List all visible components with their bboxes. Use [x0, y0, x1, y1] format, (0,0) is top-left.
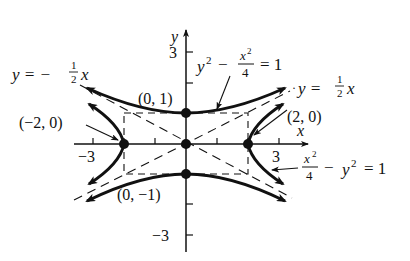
y-tick-label-3: 3	[169, 44, 177, 61]
pointer-vertical-eq	[217, 76, 230, 109]
left-branch-up	[89, 104, 124, 144]
label-point-0-neg1: (0, −1)	[117, 186, 161, 204]
svg-text:4: 4	[306, 168, 313, 183]
hyperbola-diagram: x y −3 3 3 −3 (0, 1) (0, −1) (−2, 0) (2,…	[0, 0, 410, 261]
point-neg2-0	[119, 139, 129, 149]
svg-text:2: 2	[312, 149, 317, 159]
asymptote-label-positive: · y = 1 2 x	[292, 73, 355, 99]
lower-branch	[186, 174, 285, 201]
asymptote-label-negative: y = − 1 2 x	[10, 59, 89, 85]
pointer-horizontal-eq	[272, 168, 298, 170]
svg-text:= 1: = 1	[364, 159, 386, 178]
svg-text:−: −	[218, 55, 228, 74]
svg-text:2: 2	[71, 73, 77, 85]
svg-text:x: x	[239, 48, 246, 63]
label-point-2-0: (2, 0)	[287, 108, 322, 126]
x-tick-label-3: 3	[272, 148, 280, 165]
svg-text:2: 2	[351, 157, 357, 169]
svg-text:x: x	[80, 65, 89, 84]
svg-text:2: 2	[247, 46, 252, 56]
point-0-neg1	[181, 169, 191, 179]
svg-text:2: 2	[206, 54, 212, 66]
svg-text:4: 4	[242, 65, 249, 80]
point-origin	[181, 139, 191, 149]
upper-branch	[186, 88, 285, 113]
svg-text:x: x	[346, 79, 355, 98]
svg-text:x: x	[303, 151, 310, 166]
point-0-1	[181, 108, 191, 118]
svg-text:1: 1	[71, 59, 77, 71]
pointer-neg2-0	[86, 125, 118, 140]
svg-text:y: y	[195, 57, 205, 76]
svg-text:= 1: = 1	[260, 55, 282, 74]
svg-text:1: 1	[337, 73, 343, 85]
svg-text:·: ·	[292, 81, 296, 95]
svg-text:y: y	[340, 160, 350, 179]
svg-text:2: 2	[337, 87, 343, 99]
label-point-0-1: (0, 1)	[138, 90, 173, 108]
svg-text:y = −: y = −	[10, 65, 51, 84]
svg-text:−: −	[324, 158, 334, 177]
equation-horizontal-hyperbola: x 2 4 − y 2 = 1	[302, 149, 386, 183]
y-tick-label-neg3: −3	[152, 227, 169, 244]
svg-text:y =: y =	[296, 79, 321, 98]
equation-vertical-hyperbola: y 2 − x 2 4 = 1	[195, 46, 282, 80]
x-tick-label-neg3: −3	[78, 148, 95, 165]
label-point-neg2-0: (−2, 0)	[19, 114, 63, 132]
point-2-0	[243, 139, 253, 149]
